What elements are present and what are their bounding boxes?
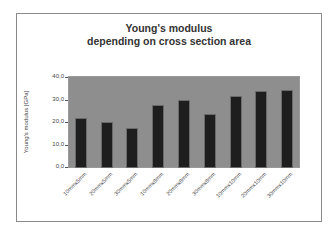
chart-title-line-1: Young's modulus xyxy=(16,22,322,35)
bar xyxy=(205,115,215,167)
chart-title: Young's modulus depending on cross secti… xyxy=(16,22,322,48)
bar xyxy=(153,106,163,167)
y-tick-label: 40,0 xyxy=(36,73,64,79)
bar xyxy=(76,119,86,167)
bar xyxy=(179,101,189,167)
chart-title-line-2: depending on cross section area xyxy=(16,35,322,48)
bar xyxy=(127,129,137,167)
y-tick-label: 0,0 xyxy=(36,163,64,169)
bar xyxy=(102,123,112,167)
y-tick-label: 10,0 xyxy=(36,141,64,147)
y-tick-label: 30,0 xyxy=(36,96,64,102)
bar xyxy=(282,91,292,168)
plot-area xyxy=(68,76,300,168)
bar xyxy=(256,92,266,167)
y-axis-label: Young's modulus [GPa] xyxy=(23,91,29,153)
y-tick-label: 20,0 xyxy=(36,118,64,124)
bar xyxy=(231,97,241,167)
